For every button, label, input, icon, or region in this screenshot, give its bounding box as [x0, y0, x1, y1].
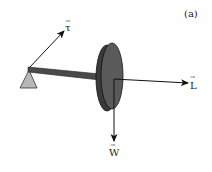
gyroscope-disk — [96, 43, 123, 111]
weight-arrow-accent: → — [110, 141, 115, 148]
panel-label: (a) — [184, 8, 198, 19]
disk-face — [101, 43, 123, 109]
angular-momentum-vector: L → — [114, 73, 197, 91]
angular-momentum-label: L — [190, 80, 197, 91]
angular-momentum-arrow — [114, 79, 188, 83]
torque-arrow-accent: → — [65, 17, 70, 24]
gyroscope-diagram: (a) τ → L → W → — [0, 0, 212, 172]
torque-vector: τ → — [29, 17, 71, 68]
gyroscope-rod — [28, 67, 100, 80]
torque-arrow — [29, 31, 64, 68]
angular-momentum-arrow-accent: → — [190, 73, 195, 80]
weight-label: W — [109, 147, 120, 158]
